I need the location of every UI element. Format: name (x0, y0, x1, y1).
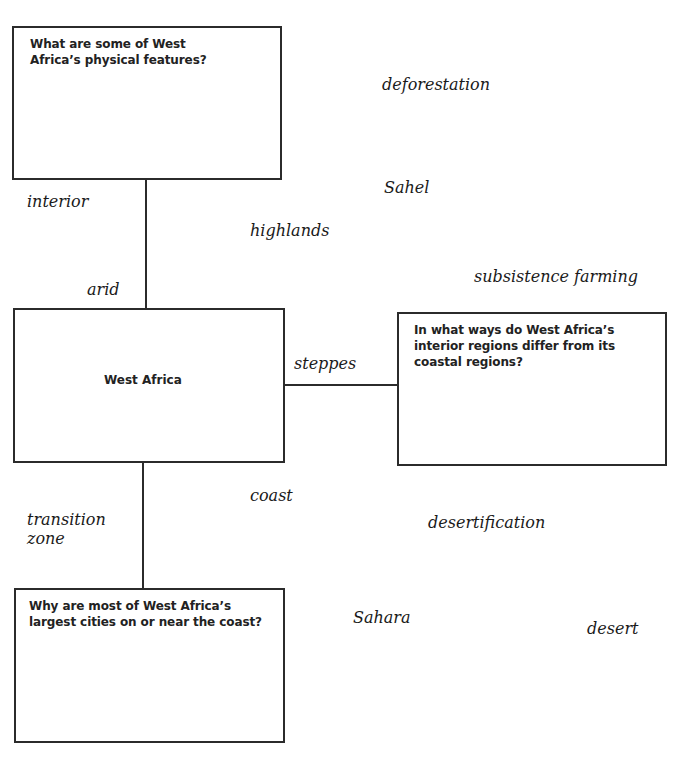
word-desertification[interactable]: desertification (428, 514, 545, 532)
word-coast[interactable]: coast (250, 487, 293, 505)
word-interior[interactable]: interior (27, 193, 88, 211)
connector-bottom (142, 463, 144, 588)
question-prompt: What are some of West Africa’s physical … (30, 36, 230, 68)
graphic-organizer: What are some of West Africa’s physical … (0, 0, 674, 761)
word-deforestation[interactable]: deforestation (382, 76, 490, 94)
word-subsistence-farming[interactable]: subsistence farming (474, 268, 638, 286)
word-desert[interactable]: desert (587, 620, 638, 638)
word-sahara[interactable]: Sahara (353, 609, 411, 627)
connector-top (145, 180, 147, 308)
question-box-physical-features[interactable]: What are some of West Africa’s physical … (12, 26, 282, 180)
question-prompt: Why are most of West Africa’s largest ci… (29, 598, 269, 630)
word-zone[interactable]: zone (27, 530, 65, 548)
word-sahel[interactable]: Sahel (384, 179, 429, 197)
question-prompt: In what ways do West Africa’s interior r… (414, 322, 654, 370)
connector-right (285, 384, 397, 386)
word-transition[interactable]: transition (27, 511, 106, 529)
word-steppes[interactable]: steppes (294, 355, 356, 373)
question-box-interior-vs-coastal[interactable]: In what ways do West Africa’s interior r… (397, 312, 667, 466)
question-box-coastal-cities[interactable]: Why are most of West Africa’s largest ci… (14, 588, 285, 743)
center-label: West Africa (104, 373, 182, 387)
word-arid[interactable]: arid (87, 281, 120, 299)
word-highlands[interactable]: highlands (250, 222, 329, 240)
